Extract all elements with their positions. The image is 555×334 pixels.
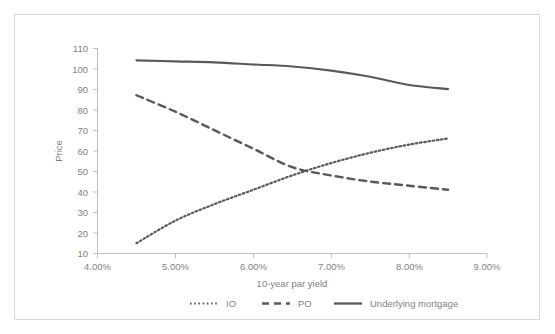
chart-figure: 110 100 90 80 70 60 50 40 30 20 10 4.00%… [0, 0, 555, 334]
y-tick-labels: 110 100 90 80 70 60 50 40 30 20 10 [72, 43, 88, 259]
y-tick-label: 100 [72, 64, 88, 75]
y-tick-label: 70 [77, 125, 88, 136]
y-tick-label: 40 [77, 187, 88, 198]
legend-label-io: IO [226, 298, 236, 309]
y-axis-title: Price [53, 140, 64, 162]
x-tick-labels: 4.00% 5.00% 6.00% 7.00% 8.00% 9.00% [84, 261, 501, 272]
line-chart: 110 100 90 80 70 60 50 40 30 20 10 4.00%… [0, 0, 555, 334]
x-tick-label: 6.00% [240, 261, 267, 272]
y-tick-label: 20 [77, 228, 88, 239]
x-tick-marks [98, 254, 488, 259]
series-line-underlying-mortgage [136, 60, 448, 89]
x-tick-label: 5.00% [162, 261, 189, 272]
x-tick-label: 9.00% [474, 261, 501, 272]
x-tick-label: 8.00% [396, 261, 423, 272]
x-tick-label: 7.00% [318, 261, 345, 272]
y-tick-label: 90 [77, 84, 88, 95]
series-line-io [136, 138, 448, 243]
y-tick-label: 60 [77, 146, 88, 157]
chart-legend: IO PO Underlying mortgage [190, 298, 458, 309]
x-tick-label: 4.00% [84, 261, 111, 272]
legend-label-underlying-mortgage: Underlying mortgage [370, 298, 458, 309]
y-tick-label: 110 [73, 43, 88, 54]
y-tick-label: 80 [77, 105, 88, 116]
legend-label-po: PO [298, 298, 312, 309]
x-axis-title: 10-year par yield [257, 278, 328, 289]
y-tick-marks [93, 49, 98, 254]
y-tick-label: 50 [77, 166, 88, 177]
y-tick-label: 30 [77, 207, 88, 218]
y-tick-label: 10 [77, 248, 88, 259]
